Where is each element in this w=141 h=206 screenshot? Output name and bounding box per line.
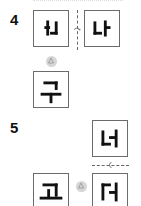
figure-box-q4-rotated bbox=[33, 71, 69, 108]
flip-arrow-icon bbox=[73, 26, 81, 34]
figure-box-q5-flipped bbox=[92, 173, 128, 206]
problem-number-4: 4 bbox=[10, 12, 18, 27]
figure-box-q5-rotated bbox=[33, 173, 69, 206]
figure-box-q4-flipped bbox=[84, 10, 120, 47]
mirrored-na-glyph-icon bbox=[34, 11, 68, 46]
problem-number-5: 5 bbox=[10, 120, 18, 135]
flip-arrow-icon bbox=[106, 161, 114, 169]
quarter-rotation-icon bbox=[46, 56, 57, 67]
quarter-rotation-icon bbox=[76, 181, 87, 192]
figure-box-q5-top bbox=[92, 120, 128, 157]
top-edge-remnant bbox=[33, 0, 123, 3]
go-glyph-icon bbox=[34, 174, 68, 206]
figure-box-q4-original bbox=[33, 10, 69, 47]
neo-glyph-icon bbox=[93, 121, 127, 156]
na-glyph-icon bbox=[85, 11, 119, 46]
flipped-neo-glyph-icon bbox=[93, 174, 127, 206]
gu-glyph-icon bbox=[34, 72, 68, 107]
